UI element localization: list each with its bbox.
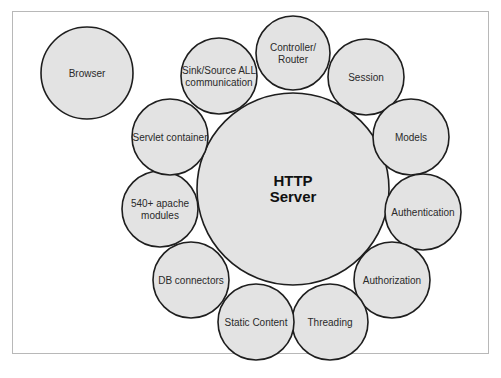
browser-node: Browser [41,27,133,119]
servlet-container-node: Servlet container [132,99,208,175]
http-server-node-label: Server [270,188,317,205]
models-node: Models [373,99,449,175]
controller-router-node-label: Controller/ [270,42,316,53]
db-connectors-node: DB connectors [153,242,229,318]
http-server-diagram: HTTPServerBrowserSink/Source ALLcommunic… [0,0,501,378]
apache-modules-node-label: 540+ apache [131,198,190,209]
controller-router-node-label: Router [278,54,309,65]
static-content-node: Static Content [218,284,294,360]
browser-node-label: Browser [69,68,106,79]
sink-source-node-label: Sink/Source ALL [182,65,256,76]
session-node-label: Session [348,72,384,83]
static-content-node-label: Static Content [225,317,288,328]
http-server-node-label: HTTP [273,172,312,189]
models-node-label: Models [395,132,427,143]
sink-source-node-label: communication [185,77,252,88]
apache-modules-node-label: modules [141,210,179,221]
authentication-node: Authentication [385,174,461,250]
controller-router-node: Controller/Router [256,16,330,90]
db-connectors-node-label: DB connectors [158,275,224,286]
apache-modules-node: 540+ apachemodules [122,171,198,247]
servlet-container-node-label: Servlet container [132,132,208,143]
sink-source-node: Sink/Source ALLcommunication [181,38,257,114]
http-server-node: HTTPServer [197,93,389,285]
threading-node: Threading [292,284,368,360]
threading-node-label: Threading [307,317,352,328]
authentication-node-label: Authentication [391,207,454,218]
authorization-node-label: Authorization [363,275,421,286]
